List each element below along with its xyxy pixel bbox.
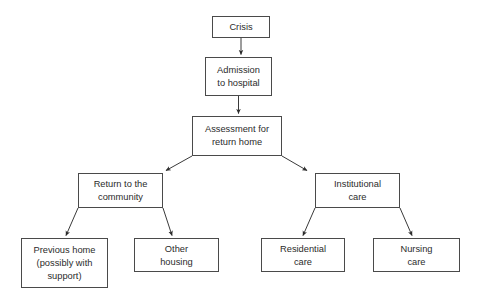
edge-institutional-to-residential-care [303,208,315,236]
node-other-housing-label-line-1: Other [165,244,188,254]
node-other-housing-label-line-2: housing [160,257,193,267]
node-nursing-care-label-line-1: Nursing [400,244,432,254]
edge-community-to-previous-home [66,208,78,236]
node-admission-label-line-2: to hospital [217,78,259,88]
flowchart-canvas: Crisis Admission to hospital Assessment … [0,0,478,304]
node-admission-box [206,58,272,96]
node-crisis[interactable]: Crisis [213,17,270,38]
node-previous-home-label-line-3: support) [47,271,81,281]
node-nursing-care-label-line-2: care [407,257,425,267]
node-previous-home-label-line-1: Previous home [33,245,95,255]
node-residential-care-label-line-1: Residential [280,244,326,254]
node-assessment[interactable]: Assessment for return home [193,117,282,156]
node-residential-care[interactable]: Residential care [262,239,345,272]
edge-assessment-to-institutional [282,156,307,171]
node-nursing-care[interactable]: Nursing care [374,239,460,272]
node-institutional[interactable]: Institutional care [316,174,400,208]
node-community-label-line-2: community [98,192,143,202]
node-residential-care-label-line-2: care [294,257,312,267]
node-other-housing[interactable]: Other housing [135,239,219,272]
node-assessment-label-line-1: Assessment for [205,124,269,134]
flowchart-svg: Crisis Admission to hospital Assessment … [0,0,478,304]
node-community[interactable]: Return to the community [79,174,163,208]
node-crisis-label-line-1: Crisis [229,22,253,32]
node-admission-label-line-1: Admission [217,65,260,75]
edge-assessment-to-community [166,156,192,171]
edge-institutional-to-nursing-care [400,208,412,236]
node-previous-home-label-line-2: (possibly with [37,258,93,268]
node-admission[interactable]: Admission to hospital [206,58,272,96]
node-institutional-label-line-2: care [348,192,366,202]
node-assessment-label-line-2: return home [212,137,262,147]
node-community-label-line-1: Return to the [94,179,148,189]
edge-community-to-other-housing [163,208,172,236]
node-previous-home[interactable]: Previous home (possibly with support) [22,239,108,288]
node-institutional-label-line-1: Institutional [334,179,381,189]
node-assessment-box [193,117,282,156]
